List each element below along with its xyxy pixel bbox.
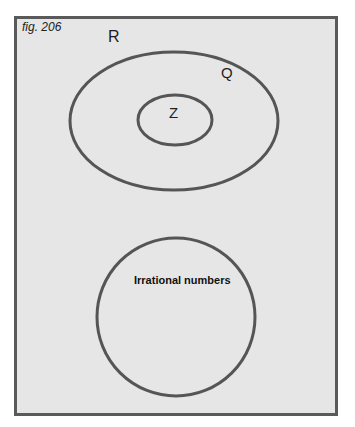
irrational-numbers-label: Irrational numbers [134, 274, 231, 286]
set-r-label: R [108, 28, 120, 46]
set-q-label: Q [221, 64, 233, 81]
figure-caption: fig. 206 [22, 20, 61, 34]
venn-diagram-shapes [0, 0, 355, 427]
set-q-ellipse [70, 52, 278, 190]
irrational-numbers-circle [97, 238, 255, 396]
set-z-label: Z [169, 104, 178, 121]
